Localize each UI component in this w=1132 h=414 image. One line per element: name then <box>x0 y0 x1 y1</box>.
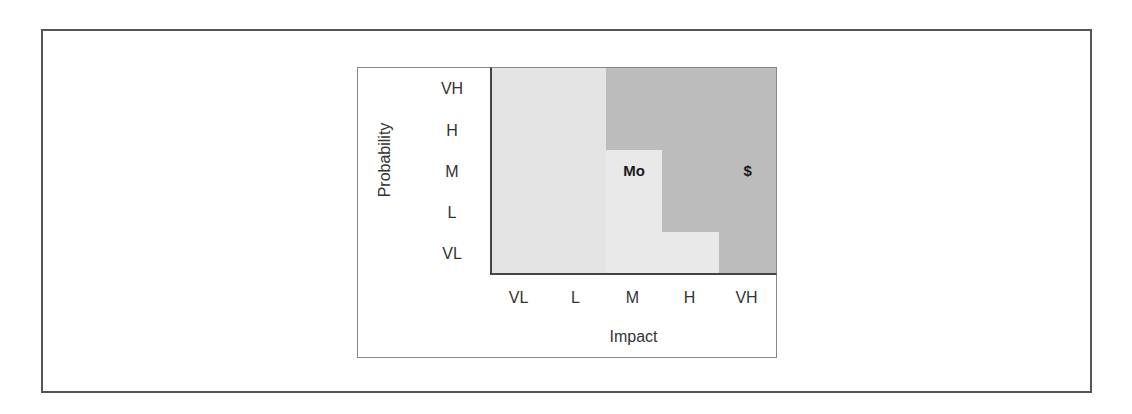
cell-h-h <box>662 109 719 150</box>
row-label-vl: VL <box>432 245 472 263</box>
row-label-vh: VH <box>432 80 472 98</box>
cell-h-vl <box>492 109 549 150</box>
cell-m-vh: $ <box>719 150 776 191</box>
cell-vh-vl <box>492 68 549 109</box>
cell-vl-vl <box>492 232 549 273</box>
row-label-l: L <box>432 204 472 222</box>
col-label-m: M <box>604 289 661 307</box>
col-label-l: L <box>547 289 604 307</box>
cell-vh-m <box>606 68 663 109</box>
y-axis-title: Probability <box>376 123 394 198</box>
cell-l-vh <box>719 191 776 232</box>
cell-vl-h <box>662 232 719 273</box>
cell-l-m <box>606 191 663 232</box>
col-label-h: H <box>661 289 718 307</box>
col-label-vl: VL <box>490 289 547 307</box>
cell-m-m: Mo <box>606 150 663 191</box>
risk-matrix-grid: Mo $ <box>490 67 777 275</box>
cell-h-m <box>606 109 663 150</box>
cell-vh-h <box>662 68 719 109</box>
cell-vl-vh <box>719 232 776 273</box>
x-axis-title: Impact <box>490 328 777 346</box>
cell-m-h <box>662 150 719 191</box>
cell-h-l <box>549 109 606 150</box>
col-label-vh: VH <box>718 289 775 307</box>
cell-vh-vh <box>719 68 776 109</box>
cell-l-h <box>662 191 719 232</box>
cell-vh-l <box>549 68 606 109</box>
row-label-m: M <box>432 163 472 181</box>
cell-m-l <box>549 150 606 191</box>
cell-m-vl <box>492 150 549 191</box>
cell-h-vh <box>719 109 776 150</box>
cell-l-l <box>549 191 606 232</box>
cell-vl-m <box>606 232 663 273</box>
row-label-h: H <box>432 122 472 140</box>
cell-l-vl <box>492 191 549 232</box>
cell-vl-l <box>549 232 606 273</box>
